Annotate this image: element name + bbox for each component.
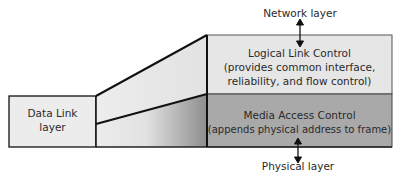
network-arrow-icon bbox=[297, 19, 304, 47]
network-layer-label: Network layer bbox=[250, 7, 350, 20]
diagram-canvas bbox=[0, 0, 406, 183]
llc-desc-line2: reliability, and flow control) bbox=[207, 75, 392, 88]
llc-desc-line1: (provides common interface, bbox=[207, 61, 392, 74]
llc-title: Logical Link Control bbox=[207, 47, 392, 60]
mac-desc-line1: (appends physical address to frame) bbox=[203, 123, 396, 136]
data-link-label-line2: layer bbox=[9, 121, 96, 134]
physical-layer-label: Physical layer bbox=[248, 160, 348, 173]
data-link-label-line1: Data Link bbox=[9, 107, 96, 120]
mac-title: Media Access Control bbox=[207, 109, 392, 122]
